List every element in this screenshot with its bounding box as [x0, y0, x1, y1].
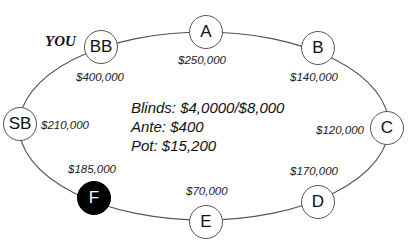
pot-text: Pot: $15,200	[131, 136, 284, 155]
stack-sb: $210,000	[41, 119, 89, 131]
seat-label: F	[89, 188, 99, 208]
ante-text: Ante: $400	[131, 117, 284, 136]
seat-label: B	[312, 38, 323, 58]
stack-e: $70,000	[186, 185, 228, 197]
stack-d: $170,000	[290, 165, 338, 177]
seat-sb: SB	[3, 107, 37, 141]
seat-label: D	[312, 192, 324, 212]
seat-label: E	[200, 212, 211, 232]
seat-b: B	[301, 31, 335, 65]
stack-bb: $400,000	[76, 71, 124, 83]
seat-label: A	[200, 22, 211, 42]
poker-table-diagram: YOU A $250,000 B $140,000 C $120,000 D $…	[0, 0, 410, 248]
seat-label: BB	[90, 37, 113, 57]
seat-c: C	[370, 111, 404, 145]
seat-label: SB	[9, 114, 32, 134]
seat-a: A	[189, 15, 223, 49]
seat-bb-you: BB	[84, 30, 118, 64]
stack-f: $185,000	[68, 163, 116, 175]
stack-a: $250,000	[178, 54, 226, 66]
stack-c: $120,000	[316, 124, 364, 136]
seat-f-folded: F	[77, 181, 111, 215]
seat-label: C	[381, 118, 393, 138]
seat-e: E	[189, 205, 223, 239]
stack-b: $140,000	[290, 71, 338, 83]
game-info: Blinds: $4,0000/$8,000 Ante: $400 Pot: $…	[131, 98, 284, 155]
seat-d: D	[301, 185, 335, 219]
blinds-text: Blinds: $4,0000/$8,000	[131, 98, 284, 117]
you-label: YOU	[45, 33, 76, 50]
